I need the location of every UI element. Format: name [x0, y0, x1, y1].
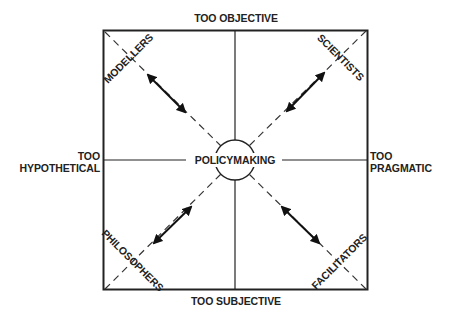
center-label: POLICYMAKING	[195, 154, 275, 166]
arrow-modellers	[148, 75, 185, 112]
axis-label-left-line1: TOO	[78, 150, 100, 162]
quadrant-label-modellers: MODELLERS	[101, 31, 156, 86]
arrow-facilitators	[282, 207, 319, 243]
policymaking-diagram: POLICYMAKING TOO OBJECTIVE TOO SUBJECTIV…	[0, 0, 449, 318]
axis-label-right-line1: TOO	[370, 150, 392, 162]
quadrant-label-facilitators: FACILITATORS	[309, 231, 370, 292]
quadrant-label-philosophers: PHILOSOPHERS	[100, 227, 167, 294]
arrow-scientists	[287, 73, 324, 111]
arrow-philosophers	[154, 207, 191, 243]
axis-label-left-line2: HYPOTHETICAL	[20, 162, 101, 174]
axis-label-top: TOO OBJECTIVE	[194, 12, 278, 24]
diagonal-top-right	[249, 31, 366, 146]
axis-label-bottom: TOO SUBJECTIVE	[191, 295, 281, 307]
diagonal-bottom-left	[105, 174, 221, 289]
axis-label-right-line2: PRAGMATIC	[370, 162, 432, 174]
